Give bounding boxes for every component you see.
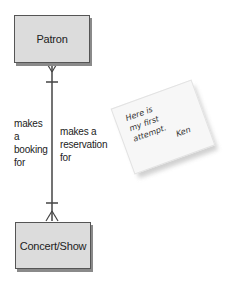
entity-concert-show[interactable]: Concert/Show xyxy=(15,222,91,269)
sticky-note-signature: Ken xyxy=(175,125,192,139)
relationship-label-right: makes a reservation for xyxy=(60,125,120,164)
entity-patron-label: Patron xyxy=(36,33,67,45)
entity-patron[interactable]: Patron xyxy=(14,15,90,63)
sticky-note-text: Here is my first attempt. xyxy=(124,102,168,145)
relationship-label-left: makes a booking for xyxy=(14,117,50,169)
entity-concert-show-label: Concert/Show xyxy=(20,240,87,252)
